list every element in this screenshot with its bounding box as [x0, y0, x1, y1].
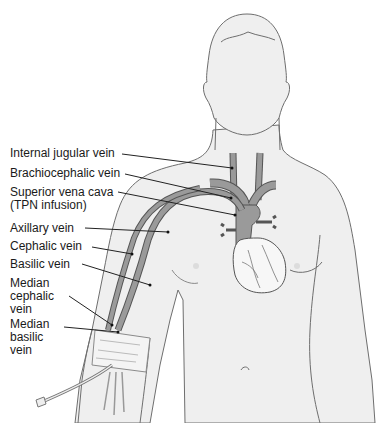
label-superior-vena-cava: Superior vena cava (TPN infusion) [10, 186, 113, 212]
nipple-right [294, 263, 300, 269]
iv-connector [36, 397, 46, 407]
label-median-basilic-vein: Median basilic vein [10, 318, 49, 357]
anatomy-diagram: Internal jugular vein Brachiocephalic ve… [0, 0, 383, 423]
label-brachiocephalic-vein: Brachiocephalic vein [10, 167, 120, 180]
label-basilic-vein: Basilic vein [10, 258, 70, 271]
label-axillary-vein: Axillary vein [10, 222, 74, 235]
label-internal-jugular-vein: Internal jugular vein [10, 147, 115, 160]
head-outline [203, 14, 289, 135]
nipple-left [193, 263, 199, 269]
label-median-cephalic-vein: Median cephalic vein [10, 277, 54, 316]
label-cephalic-vein: Cephalic vein [10, 240, 82, 253]
iv-dressing [92, 330, 150, 372]
